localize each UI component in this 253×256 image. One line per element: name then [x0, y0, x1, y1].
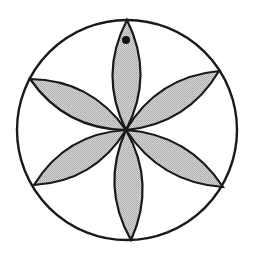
marker-dot: [122, 36, 130, 44]
petal-lower-left: [34, 130, 126, 185]
petals-group: [30, 20, 223, 240]
diagram-canvas: [0, 0, 253, 256]
petal-upper-left: [30, 79, 126, 130]
flower-diagram: [0, 0, 253, 256]
